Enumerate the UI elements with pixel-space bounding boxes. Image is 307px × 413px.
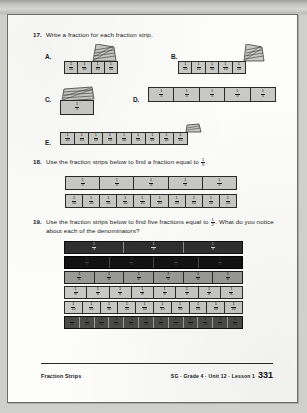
strip-cell: 110 — [65, 302, 83, 313]
problem-17-part-a: A. — [45, 45, 51, 63]
footer-title: Fraction Strips — [41, 373, 81, 379]
strip-cell: 110 — [118, 302, 136, 313]
strip-cell: 110 — [172, 302, 190, 313]
strip-cell: 18 — [176, 287, 198, 298]
strip-cell: 112 — [198, 317, 213, 328]
strip-cell: 110 — [186, 195, 203, 207]
problem-19-text: Use the fraction strips below to find fi… — [46, 218, 283, 235]
strip-19-fourths: 14 14 14 14 — [64, 256, 243, 269]
problem-18: 18. Use the fraction strips below to fin… — [33, 158, 285, 167]
footer-lesson-path: SG · Grade 4 · Unit 12 · Lesson 1 — [171, 373, 255, 379]
strip-19-tenths: 110 110 110 110 110 110 110 110 110 110 — [64, 301, 243, 314]
strip-cell: 110 — [78, 62, 91, 73]
strip-cell: 16 — [95, 272, 125, 283]
strip-cell: 112 — [109, 317, 124, 328]
strip-cell: 18 — [110, 287, 132, 298]
problem-17-part-b: B. — [171, 45, 177, 63]
problem-17-prompt: 17. Write a fraction for each fraction s… — [33, 31, 287, 40]
strip-cell: 110 — [100, 195, 117, 207]
part-c-label: C. — [45, 96, 51, 103]
strip-cell: 110 — [117, 133, 131, 144]
strip-cell: 110 — [203, 195, 220, 207]
strip-cell: 112 — [124, 317, 139, 328]
strip-cell: 112 — [80, 317, 95, 328]
strip-cell: 110 — [174, 133, 187, 144]
strip-cell: 112 — [95, 317, 110, 328]
strip-cell: 16 — [184, 272, 214, 283]
problem-18-prompt: 18. Use the fraction strips below to fin… — [33, 158, 285, 167]
problem-17-part-c: C. — [45, 88, 51, 106]
problem-17: 17. Write a fraction for each fraction s… — [33, 31, 287, 40]
strip-cell: 15 — [225, 88, 250, 101]
strip-cell: 110 — [92, 62, 105, 73]
strip-cell: 13 — [184, 242, 242, 253]
strip-cell: 110 — [83, 195, 100, 207]
problem-18-number: 18. — [33, 158, 42, 167]
strip-cell: 18 — [221, 287, 242, 298]
strip-cell: 110 — [233, 62, 245, 73]
strip-17a: 110 110 110 110 — [64, 61, 118, 74]
footer-rule — [41, 363, 273, 364]
strip-19-sixths: 16 16 16 16 16 16 — [64, 271, 243, 284]
problem-17-number: 17. — [33, 31, 42, 40]
strip-cell: 110 — [154, 302, 172, 313]
strip-17d: 15 15 15 15 15 — [148, 87, 276, 102]
page-footer: Fraction Strips SG · Grade 4 · Unit 12 ·… — [41, 370, 273, 380]
workbook-page: 17. Write a fraction for each fraction s… — [7, 14, 298, 403]
part-d-label: D. — [133, 96, 139, 103]
strip-cell: 110 — [146, 133, 160, 144]
footer-meta: SG · Grade 4 · Unit 12 · Lesson 1 331 — [171, 370, 273, 380]
strip-cell: 110 — [219, 62, 232, 73]
part-e-label: E. — [45, 139, 51, 146]
problem-17-text: Write a fraction for each fraction strip… — [46, 31, 153, 40]
strip-cell: 110 — [65, 62, 78, 73]
strip-cell: 112 — [65, 317, 80, 328]
strip-cell: 110 — [89, 133, 103, 144]
strip-18-tenths: 110 110 110 110 110 110 110 110 110 110 — [65, 194, 237, 208]
strip-cell: 13 — [65, 242, 124, 253]
strip-cell: 110 — [75, 133, 89, 144]
strip-cell: 16 — [154, 272, 184, 283]
strip-cell: 16 — [65, 272, 95, 283]
strip-19-thirds: 13 13 13 — [64, 241, 243, 254]
problem-17-part-d: D. — [133, 88, 139, 106]
strip-cell: 110 — [206, 62, 219, 73]
strip-cell: 110 — [192, 62, 205, 73]
strip-17b: 110 110 110 110 110 — [178, 61, 246, 74]
strip-cell: 110 — [169, 195, 186, 207]
strip-17e: 110 110 110 110 110 110 110 110 110 — [60, 132, 188, 145]
strip-cell: 15 — [100, 177, 134, 189]
strip-cell: 110 — [117, 195, 134, 207]
strip-cell: 110 — [101, 302, 119, 313]
strip-cell: 15 — [149, 88, 174, 101]
strip-cell: 16 — [213, 272, 242, 283]
strip-17c: 15 — [60, 100, 94, 115]
strip-cell: 110 — [179, 62, 192, 73]
strip-cell: 15 — [66, 177, 100, 189]
problem-19-prompt: 19. Use the fraction strips below to fin… — [33, 218, 283, 235]
strip-cell: 112 — [213, 317, 228, 328]
target-fraction-18: 15 — [201, 158, 205, 166]
strip-cell: 110 — [61, 133, 75, 144]
strip-cell: 110 — [105, 62, 117, 73]
strip-cell: 14 — [110, 257, 155, 268]
page-number: 331 — [258, 370, 273, 380]
strip-cell: 15 — [61, 101, 93, 114]
strip-cell: 110 — [225, 302, 242, 313]
strip-cell: 15 — [251, 88, 275, 101]
strip-cell: 112 — [228, 317, 242, 328]
strip-cell: 13 — [124, 242, 183, 253]
strip-cell: 112 — [184, 317, 199, 328]
problem-18-text: Use the fraction strips below to find a … — [46, 158, 208, 167]
strip-cell: 110 — [136, 302, 154, 313]
strip-cell: 15 — [200, 88, 225, 101]
strip-cell: 18 — [154, 287, 176, 298]
strip-cell: 18 — [199, 287, 221, 298]
strip-cell: 110 — [151, 195, 168, 207]
part-a-label: A. — [45, 53, 51, 60]
strip-cell: 110 — [132, 133, 146, 144]
strip-cell: 18 — [132, 287, 154, 298]
strip-cell: 110 — [207, 302, 225, 313]
strip-cell: 110 — [103, 133, 117, 144]
strip-18-fifths: 15 15 15 15 15 — [65, 176, 237, 190]
